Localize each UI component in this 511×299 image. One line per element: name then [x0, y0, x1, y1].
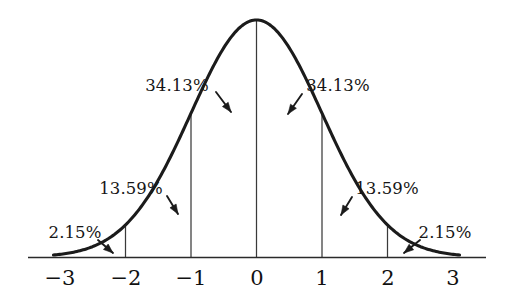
- x-tick-label-2: 2: [381, 266, 394, 290]
- annotation-one-to-two-arrow-head: [341, 205, 349, 215]
- x-tick-label-3: 3: [446, 266, 459, 290]
- annotation-minus-two-to-minus-one-text: 13.59%: [99, 179, 163, 198]
- annotation-zero-to-one-text: 34.13%: [306, 76, 370, 95]
- annotation-minus-one-to-zero-text: 34.13%: [145, 76, 209, 95]
- annotation-one-to-two-text: 13.59%: [355, 179, 419, 198]
- annotation-beyond-minus-two-text: 2.15%: [49, 223, 102, 242]
- percentage-annotations-group: 34.13%34.13%13.59%13.59%2.15%2.15%: [49, 76, 472, 253]
- x-tick-label-1: 1: [315, 266, 328, 290]
- x-tick-label-minus-1: −1: [176, 266, 207, 290]
- annotation-zero-to-one: 34.13%: [288, 76, 370, 114]
- annotation-minus-one-to-zero: 34.13%: [145, 76, 231, 112]
- annotation-beyond-two-text: 2.15%: [419, 223, 472, 242]
- normal-distribution-figure: −3−2−10123 34.13%34.13%13.59%13.59%2.15%…: [0, 0, 511, 299]
- x-axis-tick-labels-group: −3−2−10123: [45, 266, 460, 290]
- x-tick-label-minus-3: −3: [45, 266, 76, 290]
- annotation-zero-to-one-arrow-head: [288, 104, 296, 114]
- annotation-beyond-minus-two: 2.15%: [49, 223, 113, 253]
- x-tick-label-0: 0: [250, 266, 263, 290]
- annotation-one-to-two: 13.59%: [341, 179, 419, 215]
- vertical-drop-lines-group: [126, 21, 388, 257]
- distribution-chart-canvas: −3−2−10123 34.13%34.13%13.59%13.59%2.15%…: [0, 0, 511, 299]
- annotation-minus-two-to-minus-one-arrow-head: [170, 204, 178, 214]
- x-tick-label-minus-2: −2: [111, 266, 142, 290]
- annotation-beyond-two: 2.15%: [404, 223, 471, 253]
